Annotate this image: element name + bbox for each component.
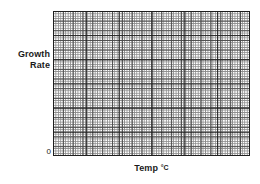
grid-minor-lines xyxy=(53,11,250,156)
x-axis-label-unit: °C xyxy=(161,164,169,171)
x-axis-label: Temp °C xyxy=(53,163,250,173)
plot-frame-border xyxy=(53,11,250,156)
y-axis-label: Growth Rate xyxy=(2,49,50,71)
x-axis-label-text: Temp xyxy=(134,163,160,173)
y-axis-origin-tick-label: 0 xyxy=(42,147,51,156)
grid-major-lines xyxy=(53,11,250,156)
plot-area xyxy=(53,11,250,156)
figure-canvas: Growth Rate 0 Temp °C xyxy=(0,0,260,184)
y-axis-label-line-2: Rate xyxy=(2,60,50,71)
y-axis-label-line-1: Growth xyxy=(2,49,50,60)
grid-medium-lines xyxy=(53,11,250,156)
